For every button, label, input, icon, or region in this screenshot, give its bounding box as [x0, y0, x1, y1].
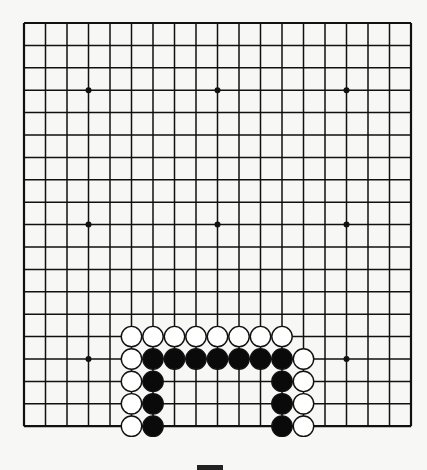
star-point: [86, 222, 92, 228]
diagram-caption-glyph: [197, 465, 223, 470]
black-stone: [272, 349, 292, 369]
star-point: [86, 356, 92, 362]
white-stone: [229, 326, 249, 346]
black-stone: [250, 349, 270, 369]
white-stone: [272, 326, 292, 346]
white-stone: [293, 416, 313, 436]
go-board[interactable]: [0, 0, 427, 470]
white-stone: [293, 371, 313, 391]
white-stone: [121, 326, 141, 346]
white-stone: [121, 394, 141, 414]
star-point: [86, 87, 92, 93]
white-stone: [121, 416, 141, 436]
black-stone: [272, 371, 292, 391]
white-stone: [121, 371, 141, 391]
white-stone: [250, 326, 270, 346]
star-point: [215, 87, 221, 93]
star-point: [344, 222, 350, 228]
white-stone: [164, 326, 184, 346]
black-stone: [164, 349, 184, 369]
black-stone: [272, 416, 292, 436]
black-stone: [207, 349, 227, 369]
star-point: [344, 356, 350, 362]
star-point: [344, 87, 350, 93]
black-stone: [229, 349, 249, 369]
white-stone: [207, 326, 227, 346]
white-stone: [143, 326, 163, 346]
black-stone: [143, 349, 163, 369]
black-stone: [143, 394, 163, 414]
black-stone: [143, 371, 163, 391]
white-stone: [121, 349, 141, 369]
black-stone: [143, 416, 163, 436]
star-point: [215, 222, 221, 228]
white-stone: [186, 326, 206, 346]
white-stone: [293, 349, 313, 369]
white-stone: [293, 394, 313, 414]
black-stone: [186, 349, 206, 369]
black-stone: [272, 394, 292, 414]
